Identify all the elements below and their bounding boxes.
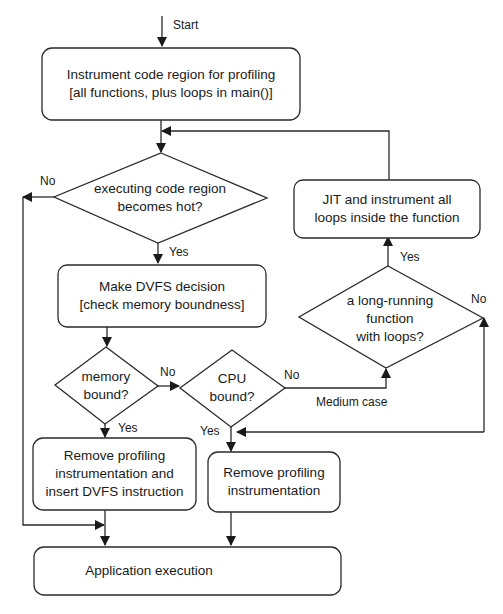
hot-line-2: becomes hot?	[118, 198, 203, 216]
remove-insert-line-2: instrumentation and	[55, 465, 174, 483]
dvfs-node-text: Make DVFS decision [check memory boundne…	[58, 265, 266, 327]
memory-yes-label: Yes	[118, 421, 138, 435]
jit-node-text: JIT and instrument all loops inside the …	[294, 180, 480, 238]
cpu-line-2: bound?	[209, 388, 254, 406]
cpu-no-label: No	[284, 368, 299, 382]
app-line-1: Application execution	[85, 562, 213, 580]
hot-decision-text: executing code region becomes hot?	[70, 178, 250, 218]
longrun-yes-label: Yes	[400, 250, 420, 264]
remove-insert-line-1: Remove profiling	[64, 447, 165, 465]
instrument-line-2: [all functions, plus loops in main()]	[69, 84, 272, 102]
cpu-line-1: CPU	[218, 370, 247, 388]
longrun-line-1: a long-running	[347, 292, 433, 310]
longrun-line-3: with loops?	[356, 328, 424, 346]
cpu-yes-label: Yes	[200, 424, 220, 438]
remove-node-text: Remove profiling instrumentation	[208, 452, 340, 512]
remove-line-2: instrumentation	[228, 482, 320, 500]
long-running-decision-text: a long-running function with loops?	[330, 290, 450, 348]
memory-no-label: No	[160, 365, 175, 379]
hot-line-1: executing code region	[94, 180, 226, 198]
memory-decision-text: memory bound?	[66, 366, 146, 406]
memory-line-1: memory	[82, 368, 131, 386]
remove-line-1: Remove profiling	[223, 464, 324, 482]
dvfs-line-1: Make DVFS decision	[99, 278, 225, 296]
hot-no-label: No	[40, 174, 55, 188]
cpu-decision-text: CPU bound?	[197, 368, 267, 408]
memory-line-2: bound?	[83, 386, 128, 404]
longrun-no-label: No	[471, 292, 486, 306]
cpu-no-edge	[285, 369, 386, 388]
remove-insert-node-text: Remove profiling instrumentation and ins…	[33, 438, 196, 510]
medium-case-label: Medium case	[316, 395, 387, 409]
application-execution-text: Application execution	[34, 547, 264, 595]
jit-line-2: loops inside the function	[315, 209, 460, 227]
longrun-line-2: function	[366, 310, 413, 328]
hot-yes-label: Yes	[169, 245, 189, 259]
instrument-node-text: Instrument code region for profiling [al…	[42, 48, 300, 120]
jit-line-1: JIT and instrument all	[323, 191, 452, 209]
start-label: Start	[173, 18, 198, 32]
instrument-line-1: Instrument code region for profiling	[67, 66, 276, 84]
remove-insert-line-3: insert DVFS instruction	[45, 483, 183, 501]
dvfs-line-2: [check memory boundness]	[79, 296, 244, 314]
